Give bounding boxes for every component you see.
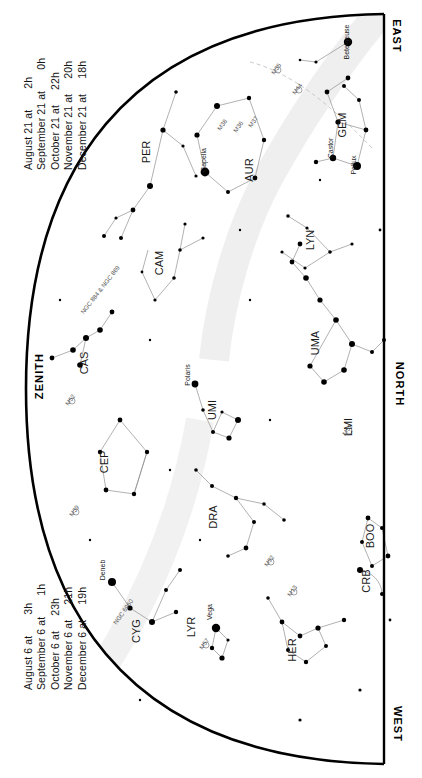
constellation-label-uma: UMA	[309, 330, 321, 355]
constellation-label-cam: CAM	[153, 251, 165, 275]
dso-label-ngc-884-ngc-869: NGC 884 & NGC 869	[79, 264, 121, 315]
cardinal-label-west: WEST	[392, 706, 404, 742]
star-chart: PERAURGEMCAMLYNCASCEPUMIUMALMIDRACYGLYRH…	[0, 0, 422, 778]
legend-time: 23h	[49, 598, 62, 628]
legend-date: November 6 at	[62, 620, 75, 690]
legend-line: November 21 at 20h	[62, 58, 75, 170]
legend-line: December 21 at 18h	[76, 58, 89, 170]
legend-date: October 6 at	[49, 631, 62, 690]
legend-date: August 6 at	[22, 636, 35, 690]
legend-line: August 6 at 3h	[22, 584, 35, 690]
star-label-capella: Capella	[200, 148, 208, 172]
legend-date: December 21 at	[76, 94, 89, 170]
constellation-label-cas: CAS	[78, 352, 90, 375]
constellation-label-umi: UMI	[206, 400, 218, 420]
legend-date: September 6 at	[35, 617, 48, 690]
star-label-polaris: Polaris	[184, 364, 191, 386]
upper-date-legend: August 21 at 2h September 21 at 0h Octob…	[22, 58, 89, 170]
lower-date-legend: August 6 at 3h September 6 at 1h October…	[22, 584, 89, 690]
legend-line: August 21 at 2h	[22, 58, 35, 170]
legend-time: 22h	[49, 72, 62, 102]
legend-line: September 6 at 1h	[35, 584, 48, 690]
legend-time: 19h	[76, 587, 89, 617]
cardinal-label-north: NORTH	[394, 362, 406, 407]
legend-date: September 21 at	[35, 91, 48, 170]
legend-line: November 6 at 21h	[62, 584, 75, 690]
legend-time: 0h	[35, 58, 48, 88]
constellation-label-her: HER	[286, 638, 298, 661]
legend-date: November 21 at	[62, 94, 75, 170]
constellation-label-dra: DRA	[207, 505, 219, 529]
stars	[50, 38, 392, 722]
legend-line: December 6 at 19h	[76, 584, 89, 690]
legend-line: October 21 at 22h	[49, 58, 62, 170]
legend-line: September 21 at 0h	[35, 58, 48, 170]
dso-label-m38: M38	[216, 117, 229, 131]
legend-time: 1h	[35, 584, 48, 614]
legend-date: August 21 at	[22, 110, 35, 170]
legend-line: October 6 at 23h	[49, 584, 62, 690]
star-label-vega: Vega	[206, 604, 214, 620]
constellation-label-aur: AUR	[243, 158, 255, 181]
legend-time: 18h	[76, 61, 89, 91]
constellation-label-lyr: LYR	[185, 617, 197, 638]
star-label-deneb: Deneb	[99, 560, 106, 581]
star-label-castor: Castor	[327, 137, 334, 158]
constellation-label-gem: GEM	[336, 112, 348, 137]
constellation-label-cyg: CYG	[130, 619, 142, 643]
cardinal-label-east: EAST	[391, 19, 403, 53]
cardinal-label-zenith: ZENITH	[33, 353, 45, 399]
star-label-betelgeuse: Betelgeuse	[343, 24, 351, 59]
constellation-label-lyn: LYN	[304, 230, 316, 251]
legend-time: 20h	[62, 61, 75, 91]
legend-date: December 6 at	[76, 620, 89, 690]
constellation-label-crb: CRB	[360, 569, 372, 592]
legend-time: 21h	[62, 587, 75, 617]
constellation-label-cep: CEP	[98, 451, 110, 474]
legend-date: October 21 at	[49, 105, 62, 170]
constellation-label-per: PER	[140, 141, 152, 164]
constellation-label-boo: BOO	[364, 523, 376, 548]
legend-time: 3h	[22, 603, 35, 633]
star-label-pollux: Pollux	[350, 155, 357, 175]
legend-time: 2h	[22, 77, 35, 107]
dso-label-m36: M36	[232, 119, 245, 133]
